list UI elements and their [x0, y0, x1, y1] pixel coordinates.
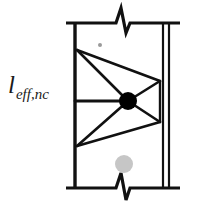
- figure-root: leff,nc: [0, 0, 201, 208]
- figure-background: [0, 0, 201, 208]
- strut-and-tie-diagram-svg: [0, 0, 201, 208]
- grey-concrete-marker: [115, 155, 133, 173]
- center-node-dot: [119, 92, 137, 110]
- grey-speck-marker: [98, 43, 102, 47]
